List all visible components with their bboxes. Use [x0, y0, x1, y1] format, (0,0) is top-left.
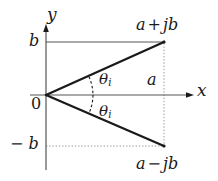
- figure-canvas: [0, 0, 218, 181]
- theta-symbol-lower: θ: [99, 102, 108, 120]
- y-axis-label: y: [47, 6, 57, 23]
- complex-plane-figure: y x 0 b − b a a+jb a−jb θi θi: [0, 0, 218, 181]
- theta-symbol-upper: θ: [99, 70, 108, 88]
- b-tick-label: b: [29, 33, 39, 49]
- point-a-minus-jb: [162, 144, 165, 147]
- theta-subscript-upper: i: [108, 77, 111, 88]
- x-axis-label: x: [197, 82, 207, 99]
- origin-label: 0: [31, 96, 41, 112]
- upper-operator: +: [146, 15, 163, 34]
- theta-subscript-lower: i: [108, 109, 111, 120]
- upper-real-part: a: [136, 15, 146, 34]
- point-a-plus-jb: [162, 40, 165, 43]
- upper-imaginary-part: jb: [163, 15, 178, 34]
- angle-arc-upper: [89, 77, 93, 95]
- angle-label-lower: θi: [99, 104, 111, 120]
- angle-arc-lower: [89, 95, 93, 113]
- lower-operator: −: [146, 154, 163, 173]
- x-axis-arrowhead: [186, 92, 194, 98]
- negative-b-tick-label: − b: [10, 136, 39, 152]
- a-tick-label: a: [147, 72, 157, 88]
- point-label-a-plus-jb: a+jb: [136, 17, 178, 33]
- y-axis-arrowhead: [43, 24, 49, 32]
- point-label-a-minus-jb: a−jb: [136, 156, 178, 172]
- angle-label-upper: θi: [99, 72, 111, 88]
- lower-imaginary-part: jb: [163, 154, 178, 173]
- lower-real-part: a: [136, 154, 146, 173]
